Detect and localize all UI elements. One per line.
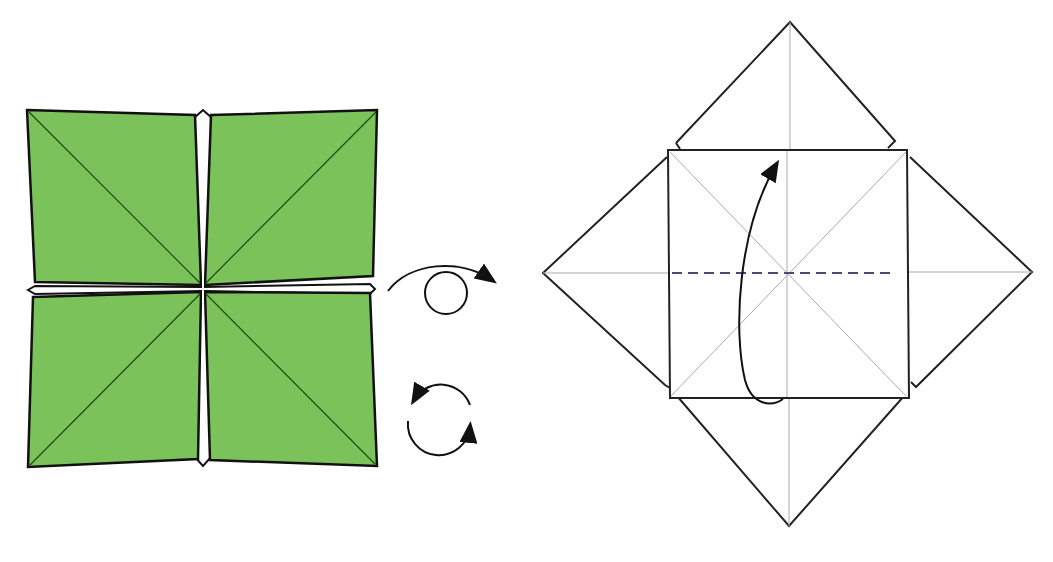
flap-bottom [677, 396, 904, 526]
flap-bottom-left [28, 292, 201, 467]
flap-top [676, 22, 895, 150]
flap-left [543, 157, 670, 388]
flap-bottom-right [205, 292, 377, 466]
flap-top-left [27, 110, 201, 285]
right-step-figure [543, 22, 1032, 526]
turn-over-symbol [388, 266, 492, 314]
origami-diagram [0, 0, 1053, 562]
left-step-figure [27, 110, 377, 467]
rotate-symbol [408, 385, 470, 456]
flap-top-right [205, 110, 377, 285]
flap-right [909, 157, 1032, 387]
